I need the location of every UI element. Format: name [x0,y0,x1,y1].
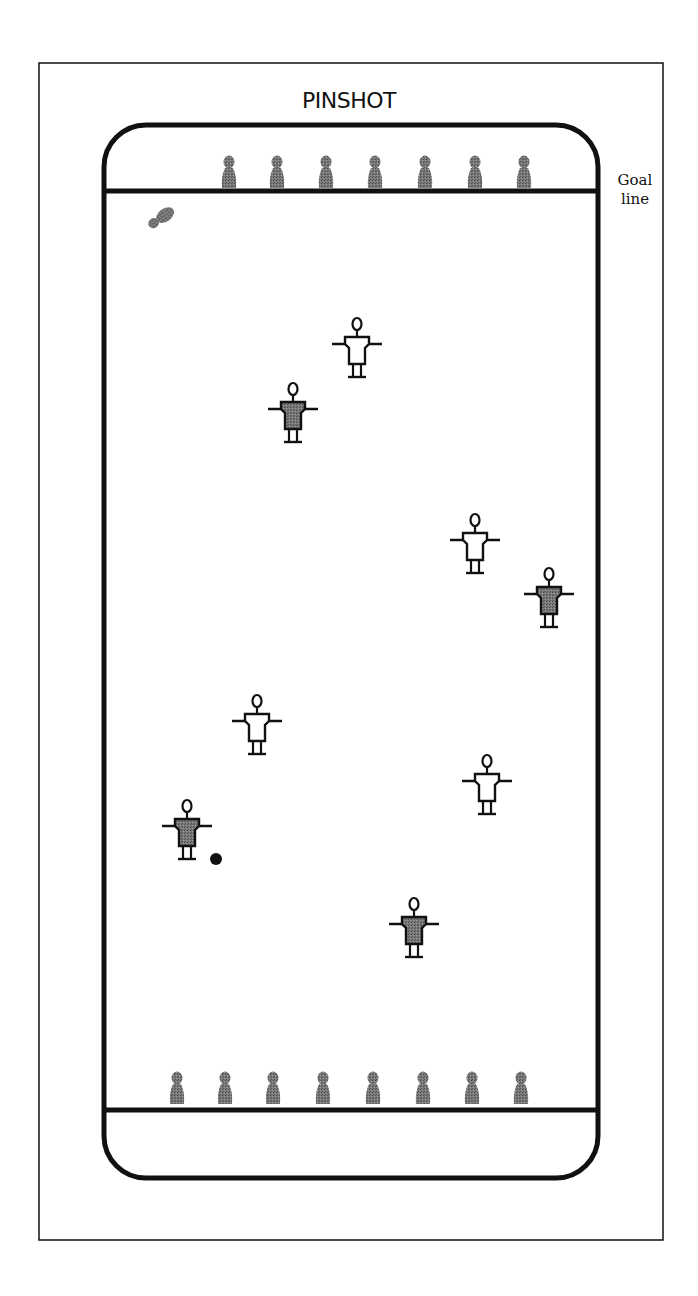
pin-icon [170,1072,184,1105]
pin-icon [418,156,432,189]
pin-icon [368,156,382,189]
light-team-player-icon [232,695,282,754]
players-group [162,318,574,957]
dark-team-player-icon [162,800,212,859]
ball-icon [210,853,222,865]
pin-icon [222,156,236,189]
top-pins-row [222,156,531,189]
pin-icon [218,1072,232,1105]
pin-icon [416,1072,430,1105]
pin-icon [465,1072,479,1105]
light-team-player-icon [462,755,512,814]
diagram-title: PINSHOT [0,88,698,113]
goal-line-label-line2: line [607,190,663,209]
pin-icon [468,156,482,189]
bottom-pins-row [170,1072,528,1105]
knocked-over-pin-icon [145,204,177,232]
dark-team-player-icon [389,898,439,957]
goal-line-label: Goal line [607,171,663,209]
pinshot-diagram [0,0,698,1296]
pin-icon [517,156,531,189]
outer-frame [39,63,663,1240]
light-team-player-icon [332,318,382,377]
pin-icon [319,156,333,189]
dark-team-player-icon [268,383,318,442]
pin-icon [316,1072,330,1105]
pin-icon [270,156,284,189]
pin-icon [266,1072,280,1105]
court-boundary [104,125,598,1178]
pin-icon [366,1072,380,1105]
dark-team-player-icon [524,568,574,627]
pin-icon [514,1072,528,1105]
goal-line-label-line1: Goal [607,171,663,190]
light-team-player-icon [450,514,500,573]
